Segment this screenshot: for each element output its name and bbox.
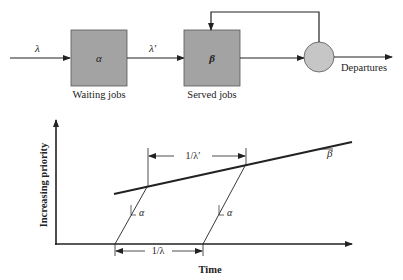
alpha-slope-label-1: α (139, 207, 145, 218)
departures-label: Departures (341, 62, 387, 73)
waiting-jobs-label: Waiting jobs (72, 89, 125, 100)
interacceptance-label: 1/λ′ (186, 150, 201, 161)
served-priority-line (114, 142, 352, 194)
transfer-rate-label: λ′ (148, 42, 157, 54)
server-circle (304, 42, 334, 72)
queue-diagram: λ α Waiting jobs λ′ β Served jobs Depart… (10, 12, 392, 100)
diagram-canvas: λ α Waiting jobs λ′ β Served jobs Depart… (0, 0, 403, 280)
waiting-box-symbol: α (96, 52, 102, 64)
served-jobs-label: Served jobs (187, 89, 236, 100)
waiting-line-2 (203, 164, 246, 244)
interarrival-label: 1/λ (152, 245, 165, 256)
beta-slope-label: β (326, 147, 333, 159)
served-box-symbol: β (208, 52, 215, 64)
arrival-rate-label: λ (34, 42, 40, 54)
y-axis-label: Increasing priority (38, 142, 49, 227)
alpha-slope-label-2: α (227, 207, 233, 218)
x-axis-label: Time (198, 264, 221, 275)
priority-chart: Increasing priority Time β α α 1/λ′ 1/λ (38, 120, 352, 275)
